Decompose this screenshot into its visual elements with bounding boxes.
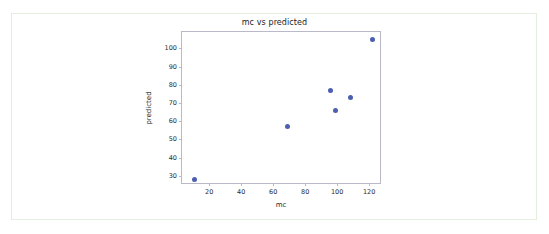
x-tick-mark bbox=[305, 183, 306, 186]
y-tick-label: 50 bbox=[169, 135, 177, 143]
x-tick-mark bbox=[241, 183, 242, 186]
data-point bbox=[348, 95, 353, 100]
x-tick-mark bbox=[369, 183, 370, 186]
x-tick-label: 60 bbox=[269, 188, 277, 196]
y-axis-label-text: predicted bbox=[145, 91, 153, 124]
data-point bbox=[328, 88, 333, 93]
data-point bbox=[370, 37, 375, 42]
x-tick-mark bbox=[209, 183, 210, 186]
data-points-layer bbox=[182, 32, 380, 183]
chart-title: mc vs predicted bbox=[133, 18, 416, 27]
scatter-chart-figure: mc vs predicted 304050607080901002040608… bbox=[133, 13, 416, 220]
y-tick-mark bbox=[179, 121, 182, 122]
y-tick-label: 70 bbox=[169, 99, 177, 107]
y-axis-label: predicted bbox=[144, 31, 154, 184]
y-tick-mark bbox=[179, 158, 182, 159]
y-tick-mark bbox=[179, 103, 182, 104]
screenshot-root: mc vs predicted 304050607080901002040608… bbox=[0, 0, 549, 234]
x-tick-label: 40 bbox=[237, 188, 245, 196]
x-axis-label: mc bbox=[181, 201, 381, 209]
y-tick-mark bbox=[179, 85, 182, 86]
y-tick-label: 60 bbox=[169, 117, 177, 125]
data-point bbox=[285, 124, 290, 129]
data-point bbox=[333, 108, 338, 113]
y-tick-mark bbox=[179, 67, 182, 68]
y-tick-label: 80 bbox=[169, 81, 177, 89]
x-tick-label: 20 bbox=[205, 188, 213, 196]
y-tick-label: 40 bbox=[169, 154, 177, 162]
x-tick-label: 100 bbox=[331, 188, 343, 196]
data-point bbox=[192, 177, 197, 182]
y-tick-mark bbox=[179, 139, 182, 140]
y-tick-mark bbox=[179, 48, 182, 49]
plot-area: 3040506070809010020406080100120 bbox=[181, 31, 381, 184]
x-tick-label: 120 bbox=[363, 188, 375, 196]
x-tick-label: 80 bbox=[301, 188, 309, 196]
y-tick-label: 30 bbox=[169, 172, 177, 180]
x-tick-mark bbox=[273, 183, 274, 186]
y-tick-label: 90 bbox=[169, 63, 177, 71]
x-tick-mark bbox=[337, 183, 338, 186]
y-tick-label: 100 bbox=[165, 44, 177, 52]
y-tick-mark bbox=[179, 176, 182, 177]
